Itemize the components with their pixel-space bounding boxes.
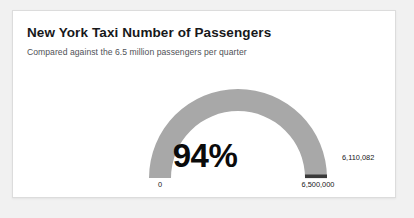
gauge-max-label: 6,500,000 — [279, 180, 357, 189]
gauge-min-label: 0 — [144, 180, 176, 189]
gauge-chart: 94% 0 6,500,000 6,110,082 — [13, 11, 396, 198]
gauge-actual-value-label: 6,110,082 — [342, 153, 374, 162]
gauge-value-label: 94% — [13, 139, 396, 172]
kpi-gauge-card: New York Taxi Number of Passengers Compa… — [12, 10, 396, 198]
screenshot-root: New York Taxi Number of Passengers Compa… — [0, 0, 414, 218]
gauge-target-marker — [305, 175, 327, 179]
